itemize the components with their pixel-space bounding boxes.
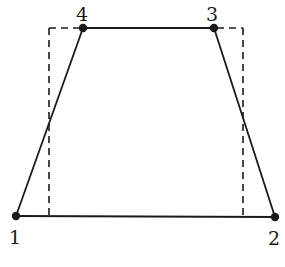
nodes — [12, 24, 279, 221]
edge-2-3 — [214, 28, 275, 217]
node-3-dot — [210, 24, 218, 32]
node-4-dot — [79, 24, 87, 32]
node-1-dot — [12, 212, 20, 220]
node-3-label: 3 — [206, 3, 218, 25]
node-2-label: 2 — [268, 227, 280, 249]
dashed-rectangle — [49, 28, 243, 216]
node-1-label: 1 — [9, 226, 21, 248]
node-4-label: 4 — [76, 3, 88, 25]
edge-1-2 — [16, 216, 275, 217]
trapezoid-element — [16, 28, 275, 217]
node-2-dot — [271, 213, 279, 221]
diagram-canvas: 1 2 3 4 — [0, 0, 285, 267]
